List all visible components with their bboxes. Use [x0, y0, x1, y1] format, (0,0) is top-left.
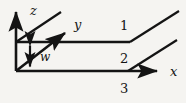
region-label-2: 2 [120, 51, 128, 66]
coordinate-slab-diagram: z y x w 1 2 3 [0, 0, 186, 103]
figure-container: z y x w 1 2 3 [0, 0, 186, 103]
region-label-1: 1 [120, 18, 128, 33]
x-axis-label: x [170, 64, 178, 79]
w-dimension-label: w [40, 50, 51, 64]
region-label-3: 3 [120, 81, 128, 96]
slab-top-left-diagonal [16, 12, 61, 42]
y-axis-label: y [73, 17, 82, 32]
slab-top-right-diagonal [130, 11, 179, 42]
z-axis-label: z [29, 3, 37, 18]
